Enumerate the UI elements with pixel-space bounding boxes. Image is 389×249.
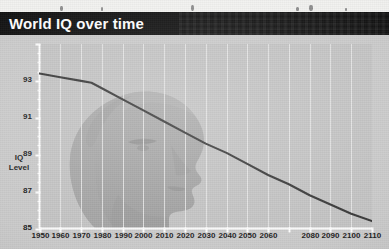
page-top-margin [0,0,389,12]
y-tick-label: 91 [10,113,32,121]
x-tick-label: 2060 [254,231,284,240]
y-axis-title-line-1: IQ [15,153,23,162]
chart-screenshot: World IQ over time [0,0,389,249]
y-tick-label: 93 [10,76,32,84]
page-title: World IQ over time [9,15,144,32]
title-bar-scan-noise [179,12,389,35]
chart-title-bar: World IQ over time [0,12,389,35]
chart-svg [0,35,389,249]
y-tick-label: 87 [10,187,32,195]
chart-area: 939189878583 IQ Level 195019601970198019… [0,35,389,249]
y-axis-title: IQ Level [2,153,36,172]
head-silhouette-watermark [70,92,204,228]
y-axis-title-line-2: Level [9,163,29,172]
x-tick-label: 2110 [358,231,388,240]
